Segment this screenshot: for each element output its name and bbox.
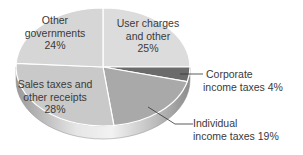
slice-label-corporate: Corporateincome taxes 4% [203, 68, 283, 93]
slice-label-individual: Individualincome taxes 19% [193, 117, 279, 142]
pie-chart: User chargesand other25%Sales taxes ando… [0, 0, 303, 155]
